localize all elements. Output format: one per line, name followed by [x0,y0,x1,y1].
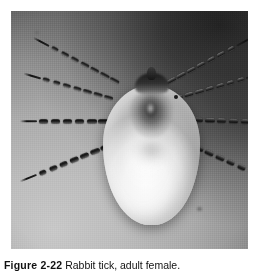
figure-block: Figure 2-22 Rabbit tick, adult female. [0,0,268,271]
figure-label: Figure 2-22 [4,259,62,271]
figure-caption: Figure 2-22 Rabbit tick, adult female. [4,259,266,271]
photo-film-grain [11,11,248,249]
tick-photograph [11,11,248,249]
figure-caption-text: Rabbit tick, adult female. [65,259,180,271]
